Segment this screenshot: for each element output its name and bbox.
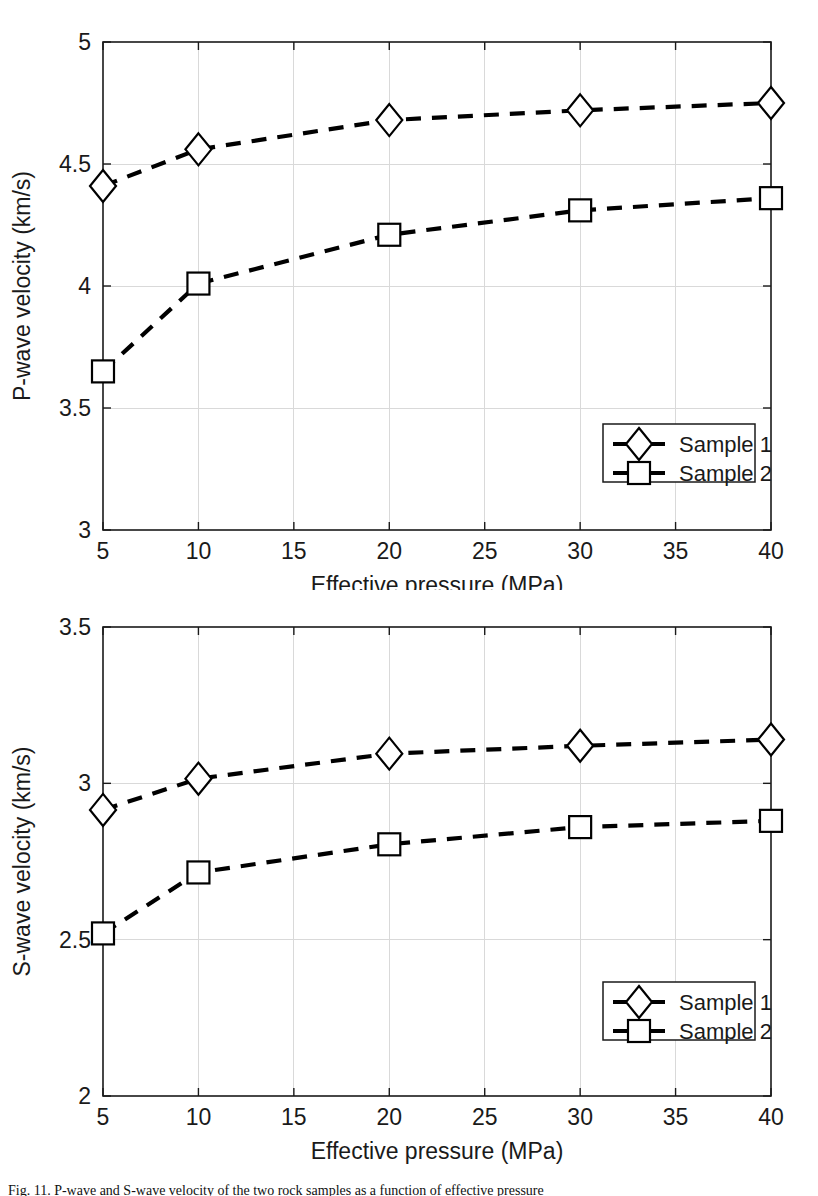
data-series-2 [92,810,782,945]
x-tick-label: 35 [663,1104,689,1130]
data-point-marker [758,724,784,756]
x-tick-label: 10 [186,538,212,564]
x-tick-label: 15 [281,1104,307,1130]
legend-marker-square [628,462,650,484]
x-tick-label: 20 [376,538,402,564]
x-axis-title: Effective pressure (MPa) [311,1138,564,1164]
figure-caption: Fig. 11. P-wave and S-wave velocity of t… [8,1183,810,1196]
x-tick-label: 5 [97,1104,110,1130]
data-series-group [90,87,784,382]
data-point-marker [185,133,211,165]
x-tick-label: 25 [472,538,498,564]
y-axis-title: S-wave velocity (km/s) [9,746,35,976]
legend-label-1: Sample 1 [679,432,772,457]
x-tick-label: 25 [472,1104,498,1130]
legend-label-2: Sample 2 [679,461,772,486]
x-tick-label: 30 [567,538,593,564]
data-point-marker [90,794,116,826]
y-tick-label: 3 [78,517,91,543]
data-point-marker [567,730,593,762]
data-point-marker [187,861,209,883]
x-tick-label: 40 [758,1104,784,1130]
s-wave-velocity-chart: 51015202530354022.533.5Effective pressur… [0,590,818,1170]
data-point-marker [567,94,593,126]
x-tick-label: 5 [97,538,110,564]
y-tick-label: 2.5 [59,927,91,953]
data-point-marker [760,810,782,832]
p-wave-velocity-chart: 51015202530354033.544.55Effective pressu… [0,0,818,590]
data-point-marker [376,738,402,770]
legend: Sample 1Sample 2 [603,982,772,1044]
x-tick-label: 40 [758,538,784,564]
data-point-marker [760,187,782,209]
legend-marker-square [628,1020,650,1042]
x-tick-label: 10 [186,1104,212,1130]
data-point-marker [378,833,400,855]
data-point-marker [569,816,591,838]
data-series-1 [90,87,784,202]
y-tick-label: 4 [78,273,91,299]
y-tick-label: 3.5 [59,395,91,421]
data-point-marker [185,763,211,795]
x-tick-label: 15 [281,538,307,564]
y-axis-title: P-wave velocity (km/s) [9,171,35,401]
data-series-1 [90,724,784,826]
y-tick-label: 4.5 [59,151,91,177]
data-point-marker [92,360,114,382]
legend: Sample 1Sample 2 [603,424,772,486]
y-tick-label: 3.5 [59,614,91,640]
x-tick-label: 20 [376,1104,402,1130]
data-point-marker [758,87,784,119]
y-tick-label: 2 [78,1083,91,1109]
data-point-marker [569,199,591,221]
chart-panel-s-wave: 51015202530354022.533.5Effective pressur… [0,590,818,1170]
x-tick-label: 30 [567,1104,593,1130]
data-series-2 [92,187,782,382]
y-tick-label: 5 [78,29,91,55]
data-point-marker [92,922,114,944]
x-tick-label: 35 [663,538,689,564]
legend-label-1: Sample 1 [679,990,772,1015]
figure-container: 51015202530354033.544.55Effective pressu… [0,0,818,1196]
data-point-marker [376,104,402,136]
legend-label-2: Sample 2 [679,1019,772,1044]
data-point-marker [378,224,400,246]
x-axis-title: Effective pressure (MPa) [311,572,564,590]
data-point-marker [90,170,116,202]
data-point-marker [187,273,209,295]
chart-panel-p-wave: 51015202530354033.544.55Effective pressu… [0,0,818,590]
data-series-group [90,724,784,945]
y-tick-label: 3 [78,770,91,796]
